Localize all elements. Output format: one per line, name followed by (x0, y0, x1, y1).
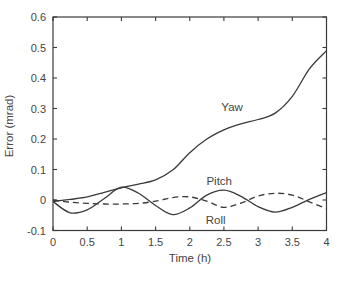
pitch-label: Pitch (206, 175, 232, 187)
x-tick-label: 3.5 (285, 236, 300, 248)
yaw-curve (53, 51, 327, 202)
y-tick-label: -0.1 (27, 225, 46, 237)
y-axis-label: Error (mrad) (3, 95, 15, 158)
yaw-label: Yaw (221, 101, 243, 113)
y-tick-label: 0.5 (31, 42, 46, 54)
line-chart: 00.511.522.533.54-0.100.10.20.30.40.50.6… (0, 0, 343, 281)
x-tick-label: 2.5 (216, 236, 231, 248)
x-tick-label: 4 (323, 236, 329, 248)
plot-border (53, 17, 327, 231)
y-tick-label: 0.2 (31, 133, 46, 145)
y-tick-label: 0.6 (31, 11, 46, 23)
chart-figure: 00.511.522.533.54-0.100.10.20.30.40.50.6… (0, 0, 343, 281)
x-axis-label: Time (h) (169, 252, 212, 264)
x-tick-label: 1 (118, 236, 124, 248)
x-tick-label: 2 (187, 236, 193, 248)
roll-label: Roll (206, 214, 226, 226)
x-tick-label: 1.5 (148, 236, 163, 248)
pitch-curve (53, 187, 327, 215)
x-tick-label: 3 (255, 236, 261, 248)
y-tick-label: 0.3 (31, 103, 46, 115)
plot-area: 00.511.522.533.54-0.100.10.20.30.40.50.6… (27, 11, 330, 248)
y-tick-label: 0.4 (31, 72, 46, 84)
x-tick-label: 0 (50, 236, 56, 248)
x-tick-label: 0.5 (80, 236, 95, 248)
y-tick-label: 0.1 (31, 164, 46, 176)
y-tick-label: 0 (40, 194, 46, 206)
